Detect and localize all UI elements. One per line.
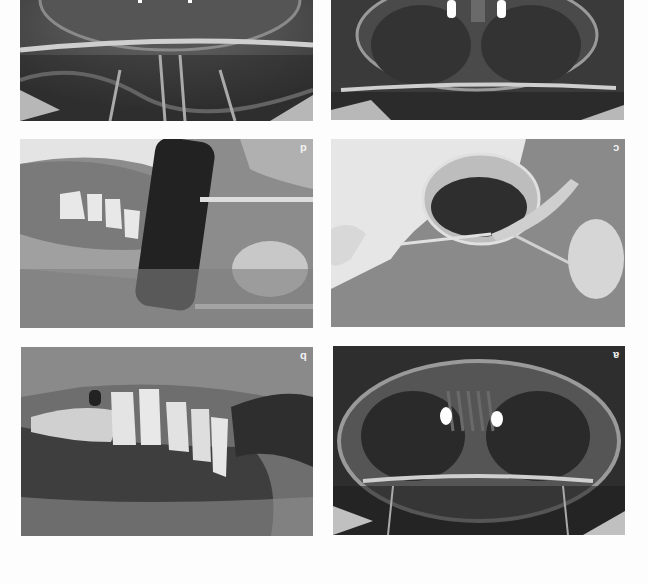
panel-radiograph-top-left — [20, 0, 313, 121]
radiograph-image — [331, 0, 624, 120]
panel-c-graft-material: c — [331, 139, 625, 327]
radiograph-image — [333, 346, 625, 535]
implant-icon — [497, 0, 506, 18]
radiograph-image — [20, 0, 313, 121]
panel-a-radiograph: a — [333, 346, 625, 535]
panel-label: b — [300, 351, 307, 362]
implant-icon — [491, 411, 503, 427]
panel-d-clinical-membrane: d — [20, 139, 313, 328]
panel-b-restored-teeth: b — [21, 347, 313, 536]
panel-radiograph-top-right — [331, 0, 624, 120]
panel-label: c — [613, 143, 619, 154]
clinical-photo — [331, 139, 625, 327]
implant-icon — [440, 407, 452, 425]
clinical-photo — [21, 347, 313, 536]
panel-label: d — [300, 143, 307, 154]
clinical-photo — [20, 139, 313, 328]
panel-label: a — [613, 350, 619, 361]
implant-icon — [447, 0, 456, 18]
